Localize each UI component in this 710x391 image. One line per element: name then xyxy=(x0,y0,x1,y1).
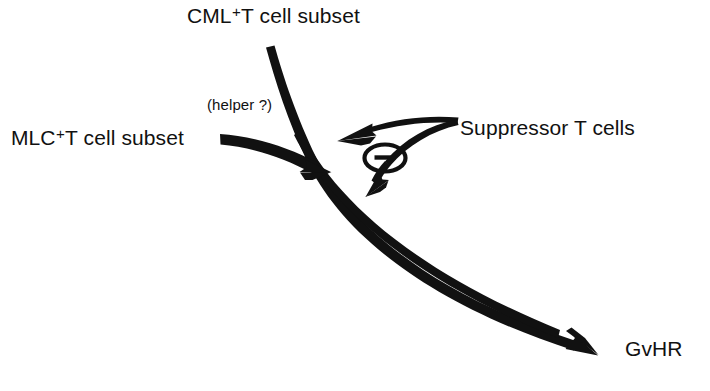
label-mlc-prefix: MLC xyxy=(11,126,56,149)
label-cml-prefix: CML xyxy=(187,4,232,27)
label-suppressor-t-cells: Suppressor T cells xyxy=(460,117,635,138)
label-mlc-suffix: T cell subset xyxy=(65,126,184,149)
label-mlc-superscript: + xyxy=(56,125,65,142)
label-mlc-t-cell-subset: MLC+T cell subset xyxy=(11,126,184,148)
suppressor-arrow-upper xyxy=(337,117,459,146)
diagram-root: CML+T cell subset MLC+T cell subset (hel… xyxy=(0,0,710,391)
label-cml-superscript: + xyxy=(232,3,241,20)
label-gvhr-outcome: GvHR xyxy=(625,338,683,359)
main-pathway-arrow xyxy=(266,46,599,356)
label-cml-suffix: T cell subset xyxy=(241,4,360,27)
label-helper-annotation: (helper ?) xyxy=(207,97,272,112)
pathway-diagram-canvas xyxy=(0,0,710,391)
label-cml-t-cell-subset: CML+T cell subset xyxy=(187,4,360,26)
